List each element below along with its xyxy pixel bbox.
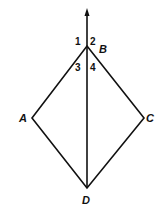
point-B-label: B [99,43,107,55]
angle-2-label: 2 [90,36,96,47]
angle-3-label: 3 [75,62,81,73]
kite-diagram: 1 2 B 3 4 A C D [0,0,161,217]
angle-4-label: 4 [90,62,96,73]
point-C-label: C [146,112,155,124]
arrowhead-icon [85,8,90,16]
point-D-label: D [82,194,90,206]
quadrilateral-ABCD [32,46,144,188]
point-A-label: A [18,112,27,124]
angle-1-label: 1 [75,36,81,47]
